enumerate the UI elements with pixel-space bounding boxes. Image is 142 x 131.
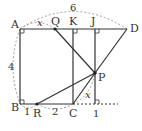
- measure-CI: 1: [93, 108, 99, 119]
- label-A: A: [10, 18, 20, 31]
- measure-RC: 2: [52, 106, 58, 117]
- segment-DP: [95, 29, 127, 73]
- measure-AB: 4: [8, 61, 14, 72]
- measure-AQ: x: [37, 17, 43, 28]
- label-C: C: [69, 107, 77, 120]
- label-R: R: [33, 107, 42, 120]
- label-B: B: [11, 101, 19, 114]
- segment-CP: [73, 73, 95, 104]
- geometry-diagram: A B C D Q K J P R 6 4 x x 1 2 1: [0, 0, 142, 131]
- measure-BR: 1: [24, 106, 30, 117]
- point-P: [93, 71, 97, 75]
- label-Q: Q: [51, 15, 60, 28]
- label-D: D: [130, 22, 139, 35]
- measure-CP: x: [85, 89, 91, 100]
- label-J: J: [90, 15, 95, 28]
- segment-QP: [55, 29, 95, 73]
- label-P: P: [98, 71, 106, 84]
- point-R: [35, 102, 38, 105]
- measure-AD: 6: [70, 2, 76, 13]
- label-K: K: [69, 15, 78, 28]
